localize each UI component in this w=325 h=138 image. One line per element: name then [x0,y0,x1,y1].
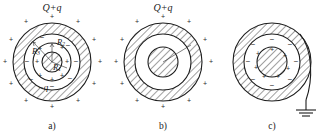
plus-charge: + [187,97,191,104]
plus-charge: + [203,36,207,43]
plus-charge: + [114,58,118,65]
panel-b: + + + + + + + + + + + + Q+q b) [114,2,213,132]
plus-charge: + [60,72,64,79]
plus-charge: + [50,103,54,110]
minus-charge: − [29,75,34,84]
panel-c-caption: c) [268,121,275,132]
minus-charge: − [270,81,275,90]
plus-charge: + [76,18,80,25]
minus-charge: − [25,57,30,66]
plus-charge: + [276,73,280,80]
plus-charge: + [24,97,28,104]
plus-charge: + [262,73,266,80]
minus-charge: − [74,57,79,66]
plus-charge: + [76,97,80,104]
panel-b-top-label: Q+q [154,2,173,13]
plus-charge: + [92,80,96,87]
minus-charge: − [246,57,251,66]
minus-charge: − [288,75,293,84]
plus-charge: + [24,18,28,25]
plus-charge: + [35,58,39,65]
panel-a-top-label: Q+q [43,2,62,13]
plus-charge: + [92,36,96,43]
plus-charge: + [9,80,13,87]
plus-charge: + [9,36,13,43]
diagram-canvas: + + + + + + + + + + + + [0,0,325,138]
plus-charge: + [286,65,290,72]
plus-charge: + [50,13,54,20]
minus-charge: − [288,40,293,49]
panel-a-caption: a) [48,121,55,132]
plus-charge: + [161,103,165,110]
plus-charge: + [270,46,274,53]
physics-figure: + + + + + + + + + + + + [0,0,325,138]
plus-charge: + [38,72,42,79]
panel-b-caption: b) [159,121,167,132]
minus-charge: − [294,57,299,66]
plus-charge: + [3,58,7,65]
panel-a-charge-q-label: −q [38,82,49,92]
plus-charge: + [254,64,258,71]
plus-charge: + [98,58,102,65]
plus-charge: + [120,80,124,87]
plus-charge: + [65,58,69,65]
plus-charge: + [135,18,139,25]
plus-charge: + [209,58,213,65]
minus-charge: − [68,74,73,83]
plus-charge: + [120,36,124,43]
panel-a: + + + + + + + + + + + + [3,2,102,132]
plus-charge: + [50,76,54,83]
minus-charge: − [50,82,55,91]
plus-charge: + [203,80,207,87]
minus-charge: − [251,40,256,49]
plus-charge: + [256,50,260,57]
minus-charge: − [40,33,45,42]
plus-charge: + [161,13,165,20]
minus-charge: − [251,75,256,84]
plus-charge: + [135,97,139,104]
plus-charge: + [187,18,191,25]
minus-charge: − [270,35,275,44]
panel-c: − − − − − − − − + + + + + + + [233,23,316,132]
plus-charge: + [283,52,287,59]
minus-charge: − [66,41,71,50]
